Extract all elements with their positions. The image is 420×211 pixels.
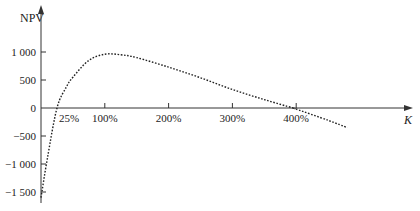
x-tick-label: 200% xyxy=(156,112,182,124)
x-tick-label: 100% xyxy=(92,112,118,124)
y-tick-label: 0 xyxy=(31,102,37,114)
y-tick-label: −500 xyxy=(13,130,36,142)
npv-line xyxy=(41,54,347,198)
npv-curve xyxy=(41,54,347,198)
x-axis-label: K xyxy=(403,113,413,127)
y-tick-label: −1 000 xyxy=(5,158,36,170)
y-tick-label: −1 500 xyxy=(5,186,36,198)
npv-chart: 1 0005000−500−1 000−1 50025%100%200%300%… xyxy=(0,0,420,211)
x-tick-label: 400% xyxy=(283,112,309,124)
x-tick-label: 300% xyxy=(220,112,246,124)
x-axis-arrow-icon xyxy=(404,105,413,111)
y-axis-label: NPV xyxy=(20,11,44,25)
y-tick-label: 500 xyxy=(20,74,37,86)
y-tick-label: 1 000 xyxy=(11,46,36,58)
ticks: 1 0005000−500−1 000−1 50025%100%200%300%… xyxy=(5,46,309,198)
x-tick-label: 25% xyxy=(59,112,79,124)
axes xyxy=(38,5,413,203)
